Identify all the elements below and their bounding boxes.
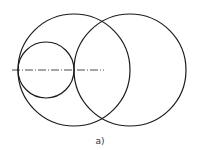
figure-caption: a)	[90, 136, 110, 146]
geometry-diagram	[0, 0, 203, 150]
